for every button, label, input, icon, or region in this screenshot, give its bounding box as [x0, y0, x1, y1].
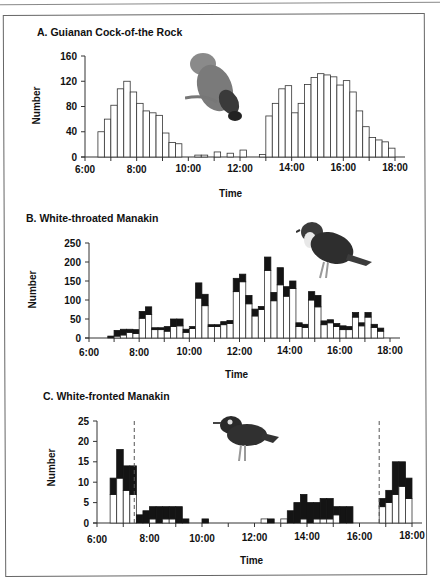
white-throated-manakin-icon: [296, 218, 374, 282]
svg-text:8:00: 8:00: [127, 164, 147, 175]
svg-text:8:00: 8:00: [129, 347, 149, 358]
svg-text:200: 200: [64, 257, 81, 268]
svg-text:18:00: 18:00: [382, 162, 408, 173]
svg-text:6:00: 6:00: [75, 164, 95, 175]
svg-text:20: 20: [78, 436, 90, 447]
svg-text:18:00: 18:00: [399, 530, 425, 541]
svg-text:50: 50: [70, 314, 82, 325]
svg-text:10:00: 10:00: [177, 346, 203, 357]
svg-text:16:00: 16:00: [327, 345, 353, 356]
svg-text:16:00: 16:00: [331, 162, 357, 173]
svg-text:10:00: 10:00: [189, 533, 215, 544]
svg-text:6:00: 6:00: [79, 347, 99, 358]
svg-text:8:00: 8:00: [139, 533, 159, 544]
svg-text:18:00: 18:00: [377, 345, 403, 356]
svg-text:12:00: 12:00: [227, 346, 253, 357]
svg-text:25: 25: [78, 416, 90, 427]
svg-text:150: 150: [64, 276, 81, 287]
svg-text:10: 10: [78, 477, 90, 488]
svg-text:100: 100: [64, 295, 81, 306]
svg-text:120: 120: [60, 76, 77, 87]
cock-of-the-rock-icon: [185, 50, 250, 125]
svg-text:6:00: 6:00: [87, 534, 107, 545]
svg-text:80: 80: [66, 101, 78, 112]
svg-text:15: 15: [78, 456, 90, 467]
svg-text:10:00: 10:00: [176, 163, 202, 174]
svg-text:0: 0: [75, 333, 81, 344]
svg-text:160: 160: [60, 51, 77, 62]
svg-text:14:00: 14:00: [279, 162, 305, 173]
svg-text:0: 0: [83, 518, 89, 529]
svg-text:250: 250: [64, 238, 81, 249]
svg-text:14:00: 14:00: [294, 531, 320, 542]
white-fronted-manakin-icon: [213, 413, 281, 465]
svg-text:12:00: 12:00: [227, 163, 253, 174]
svg-text:5: 5: [83, 497, 89, 508]
svg-text:12:00: 12:00: [242, 532, 268, 543]
svg-text:16:00: 16:00: [347, 531, 373, 542]
panel-b-chart: 0501001502002506:008:0010:0012:0014:0016…: [0, 195, 440, 385]
svg-text:40: 40: [66, 126, 78, 137]
svg-text:14:00: 14:00: [277, 345, 303, 356]
svg-text:0: 0: [71, 152, 77, 163]
